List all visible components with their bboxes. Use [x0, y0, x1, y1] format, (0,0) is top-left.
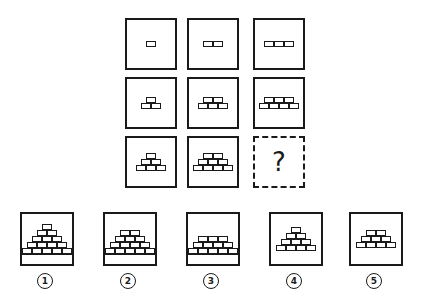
- missing-cell: ?: [253, 136, 305, 188]
- brick: [52, 248, 62, 254]
- grid-cell: [187, 18, 239, 70]
- brick: [366, 242, 376, 248]
- brick: [141, 103, 151, 109]
- brick: [203, 41, 213, 47]
- ground-line: [188, 254, 238, 255]
- ground-line: [105, 254, 155, 255]
- brick: [213, 41, 223, 47]
- brick: [198, 103, 208, 109]
- brick: [198, 248, 208, 254]
- ground-line: [22, 254, 72, 255]
- brick: [274, 41, 284, 47]
- brick: [203, 165, 213, 171]
- option-label-1: 1: [37, 273, 53, 289]
- answer-option-4[interactable]: [269, 212, 323, 266]
- brick: [264, 41, 274, 47]
- grid-cell: [187, 77, 239, 129]
- grid-cell: [253, 77, 305, 129]
- brick: [218, 248, 228, 254]
- brick: [105, 248, 115, 254]
- brick: [228, 248, 238, 254]
- option-label-5: 5: [366, 273, 382, 289]
- brick: [279, 103, 289, 109]
- brick: [306, 245, 316, 251]
- option-label-4: 4: [286, 273, 302, 289]
- grid-cell: [125, 18, 177, 70]
- brick: [208, 103, 218, 109]
- brick: [276, 245, 286, 251]
- brick: [151, 103, 161, 109]
- brick: [22, 248, 32, 254]
- option-label-3: 3: [203, 273, 219, 289]
- answer-option-1[interactable]: [20, 212, 74, 266]
- brick: [284, 41, 294, 47]
- brick: [289, 103, 299, 109]
- brick: [356, 242, 366, 248]
- answer-option-2[interactable]: [103, 212, 157, 266]
- answer-option-5[interactable]: [349, 212, 403, 266]
- brick: [146, 165, 156, 171]
- brick: [269, 103, 279, 109]
- brick: [223, 165, 233, 171]
- brick: [136, 165, 146, 171]
- brick: [156, 165, 166, 171]
- brick: [386, 242, 396, 248]
- brick: [146, 41, 156, 47]
- brick: [193, 165, 203, 171]
- brick: [42, 248, 52, 254]
- grid-cell: [253, 18, 305, 70]
- brick: [218, 103, 228, 109]
- brick: [259, 103, 269, 109]
- brick: [376, 242, 386, 248]
- grid-cell: [187, 136, 239, 188]
- brick: [296, 245, 306, 251]
- answer-option-3[interactable]: [186, 212, 240, 266]
- brick: [286, 245, 296, 251]
- brick: [125, 248, 135, 254]
- brick: [135, 248, 145, 254]
- brick: [145, 248, 155, 254]
- question-mark: ?: [255, 138, 303, 186]
- grid-cell: [125, 77, 177, 129]
- brick: [62, 248, 72, 254]
- brick: [115, 248, 125, 254]
- option-label-2: 2: [120, 273, 136, 289]
- grid-cell: [125, 136, 177, 188]
- brick: [188, 248, 198, 254]
- brick: [208, 248, 218, 254]
- brick: [213, 165, 223, 171]
- brick: [32, 248, 42, 254]
